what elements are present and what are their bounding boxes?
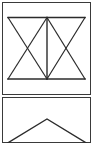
figure-root: Two-panel geometric line figure	[0, 0, 93, 143]
upper-panel	[3, 3, 91, 95]
lower-panel	[3, 98, 91, 144]
figure-canvas	[0, 0, 93, 143]
